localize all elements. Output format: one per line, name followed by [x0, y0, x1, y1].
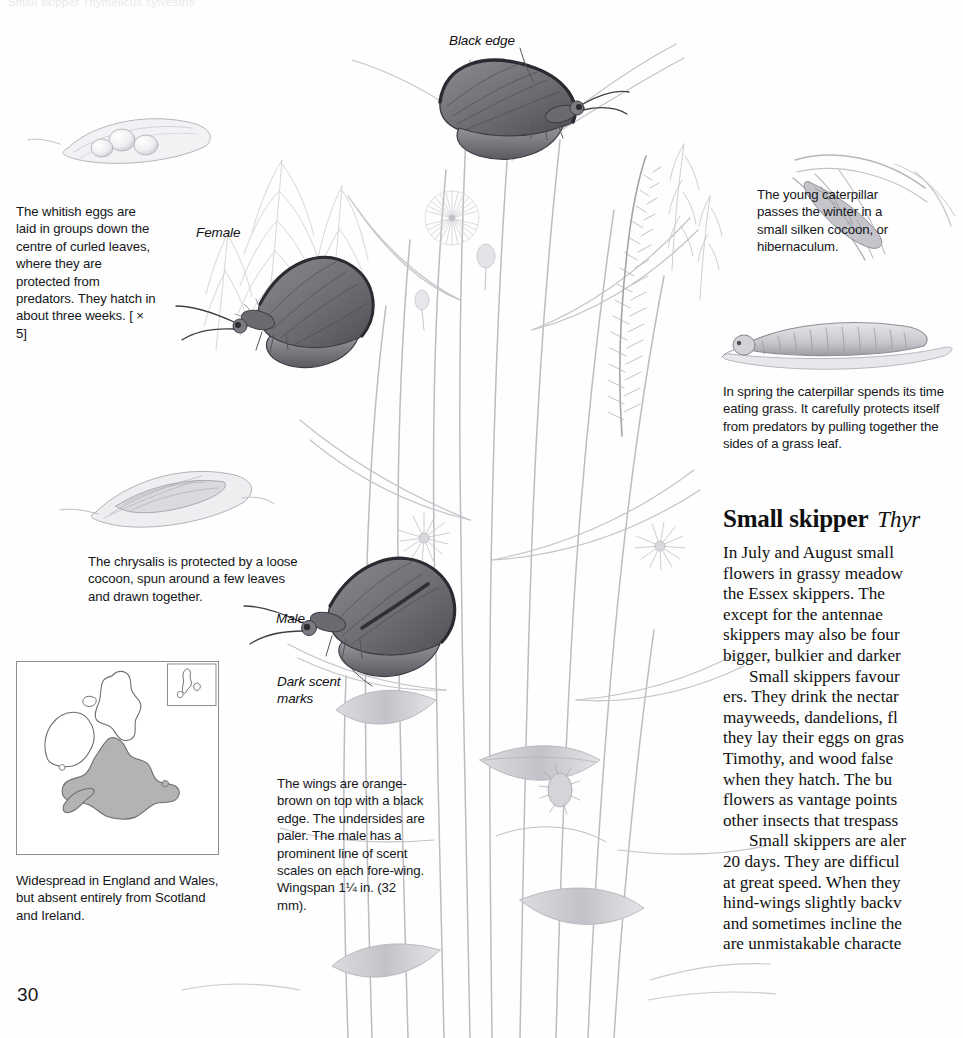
- article-title: Small skipper: [723, 505, 868, 532]
- article-line: In July and August small: [723, 543, 963, 564]
- caption-chrysalis-text: The chrysalis is protected by a loose co…: [88, 553, 298, 605]
- map-ireland: [45, 712, 94, 766]
- book-page: Small skipper Thymelicus sylvestris: [0, 0, 963, 1038]
- caption-spring: In spring the caterpillar spends its tim…: [723, 383, 961, 453]
- article-line: they lay their eggs on gras: [723, 728, 963, 749]
- article-line: except for the antennae: [723, 605, 963, 626]
- article-line: the Essex skippers. The: [723, 584, 963, 605]
- page-number: 30: [17, 984, 39, 1006]
- article-paragraph-2: Small skippers favour ers. They drink th…: [723, 667, 963, 832]
- caption-wings-text: The wings are orange-brown on top with a…: [277, 775, 427, 914]
- article-paragraph-3: Small skippers are aler 20 days. They ar…: [723, 831, 963, 955]
- figure-label-female: Female: [196, 224, 240, 241]
- article-line: 20 days. They are difficul: [723, 852, 963, 873]
- figure-label-black-edge: Black edge: [449, 32, 515, 49]
- article-line: skippers may also be four: [723, 625, 963, 646]
- article-line: are unmistakable characte: [723, 934, 963, 955]
- article-title-line: Small skipperThyr: [723, 505, 963, 534]
- caption-eggs: The whitish eggs are laid in groups down…: [16, 203, 156, 342]
- article-line: and sometimes incline the: [723, 914, 963, 935]
- article-line: bigger, bulkier and darker: [723, 646, 963, 667]
- caption-hibernaculum-text: The young caterpillar passes the winter …: [757, 186, 907, 256]
- article-line: Timothy, and wood false: [723, 749, 963, 770]
- figure-label-male: Male: [276, 610, 305, 627]
- caption-map: Widespread in England and Wales, but abs…: [16, 872, 226, 924]
- caption-hibernaculum: The young caterpillar passes the winter …: [757, 186, 907, 256]
- article-line: Small skippers favour: [723, 667, 963, 688]
- distribution-map: [16, 661, 219, 855]
- article-line: Small skippers are aler: [723, 831, 963, 852]
- article-paragraph-1: In July and August small flowers in gras…: [723, 543, 963, 667]
- article-line: flowers as vantage points: [723, 790, 963, 811]
- article-scientific-name: Thyr: [868, 507, 920, 532]
- figure-label-dark-scent-marks: Dark scent marks: [277, 673, 341, 707]
- article-line: mayweeds, dandelions, fl: [723, 708, 963, 729]
- caption-eggs-text: The whitish eggs are laid in groups down…: [16, 203, 156, 342]
- caption-wings: The wings are orange-brown on top with a…: [277, 775, 427, 914]
- caption-chrysalis: The chrysalis is protected by a loose co…: [88, 553, 298, 605]
- article-line: flowers in grassy meadow: [723, 564, 963, 585]
- map-scotland: [95, 671, 141, 740]
- article-line: when they hatch. The bu: [723, 770, 963, 791]
- caption-spring-text: In spring the caterpillar spends its tim…: [723, 383, 961, 453]
- article-line: at great speed. When they: [723, 873, 963, 894]
- article-line: hind-wings slightly backv: [723, 893, 963, 914]
- article-column: Small skipperThyr In July and August sma…: [723, 505, 963, 965]
- running-head: Small skipper Thymelicus sylvestris: [8, 0, 408, 8]
- article-line: ers. They drink the nectar: [723, 687, 963, 708]
- caption-map-text: Widespread in England and Wales, but abs…: [16, 872, 226, 924]
- article-line: other insects that trespass: [723, 811, 963, 832]
